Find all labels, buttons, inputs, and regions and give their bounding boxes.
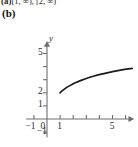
y-tick-label-1: 1 [38,99,43,109]
graph-plot [0,0,138,147]
x-tick-label-6: 5 [110,121,115,131]
data-curve [60,68,132,93]
x-axis-arrow-icon [128,116,134,122]
x-tick-label-0: −1 [25,121,35,131]
y-tick-label-0: −1 [37,126,47,136]
y-tick-label-2: 2 [38,86,43,96]
x-tick-label-2: 1 [57,121,62,131]
y-tick-label-5: 5 [38,47,43,57]
figure-panel: (a)[1, ∞), [2, ∞) (b) y −1015−1125 [0,0,138,147]
y-axis-name-label: y [49,33,53,43]
